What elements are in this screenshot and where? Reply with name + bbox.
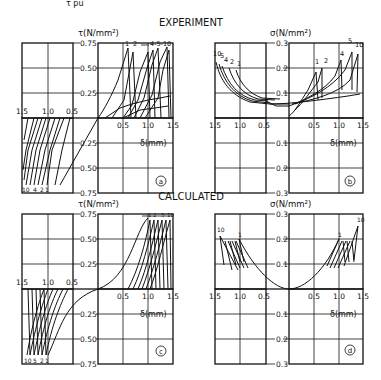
panel-b-ytick: 0.3 xyxy=(276,189,288,198)
panel-c-xtick: 1.5 xyxy=(16,278,28,287)
panel-d-curve-label: 10 xyxy=(217,226,225,233)
panel-b-xtick: 1.0 xyxy=(333,121,345,130)
panel-a-ytick: 0.25 xyxy=(80,89,97,98)
panel-d-ytick: 0.1 xyxy=(276,260,288,269)
panel-a-ytick: 0.75 xyxy=(80,39,97,48)
panel-b-ytick: 0.1 xyxy=(276,89,288,98)
section-title-experiment: EXPERIMENT xyxy=(159,17,224,28)
panel-a-curve-label: 4 xyxy=(33,186,37,193)
panel-a-curve-label: 1 xyxy=(125,40,129,48)
panel-b-xtick: 1.5 xyxy=(357,121,369,130)
panel-c-ytick: 0.75 xyxy=(80,210,97,219)
panel-c-xtick: 0.5 xyxy=(117,292,129,301)
panel-c-ytick: 0.50 xyxy=(80,335,97,344)
panel-b-curve-label: 2 xyxy=(230,58,234,66)
panel-c-ytick: 0.50 xyxy=(80,235,97,244)
panel-d-xtick: 0.5 xyxy=(258,292,270,301)
panel-b-xlabel: δ(mm) xyxy=(330,139,357,148)
panel-c-xtick: 0.5 xyxy=(66,278,78,287)
panel-c-ytick: 0.25 xyxy=(80,260,97,269)
panel-a-curve-label: 4-5-10 xyxy=(150,40,171,48)
panel-b-curve-label: 5 xyxy=(348,37,352,45)
panel-d-ytick: 0.2 xyxy=(276,335,288,344)
panel-b-ytick: 0.2 xyxy=(276,164,288,173)
panel-a-ytick: 0.50 xyxy=(80,64,97,73)
panel-b-ylabel: σ(N/mm²) xyxy=(270,28,311,38)
panel-c-xtick: 1.0 xyxy=(42,278,54,287)
panel-b-ytick: 0.3 xyxy=(276,39,288,48)
panel-a-ytick: 0.50 xyxy=(80,164,97,173)
panel-d-ytick: 0.1 xyxy=(276,310,288,319)
panel-a-ytick: 0.25 xyxy=(80,139,97,148)
panel-a-xtick: 1.5 xyxy=(16,107,28,116)
panel-c-ytick: 0.25 xyxy=(80,310,97,319)
panel-a-xtick: 1.5 xyxy=(167,121,179,130)
panel-b-curve-label: 4 xyxy=(340,50,344,58)
panel-c-curve-label: 2 xyxy=(153,212,157,218)
panel-b-xtick: 0.5 xyxy=(308,121,320,130)
panel-c-xlabel: δ(mm) xyxy=(140,310,167,319)
panel-b-xtick: 0.5 xyxy=(258,121,270,130)
panel-c-xtick: 1.0 xyxy=(142,292,154,301)
panel-d-curve-label: 1 xyxy=(338,231,342,238)
panel-c-curve-label: 1 xyxy=(148,212,152,218)
panel-d-xtick: 1.5 xyxy=(209,292,221,301)
panel-d-badge: d xyxy=(348,347,352,355)
panel-b-xtick: 1.5 xyxy=(209,121,221,130)
panel-d-xtick: 1.5 xyxy=(357,292,369,301)
panel-d-ytick: 0.3 xyxy=(276,360,288,369)
panel-b-badge: b xyxy=(348,178,353,186)
panel-a-xtick: 1.0 xyxy=(42,107,54,116)
panel-a-xtick: 0.5 xyxy=(66,107,78,116)
panel-b-xtick: 1.0 xyxy=(234,121,246,130)
figure: τ pu EXPERIMENT CALCULATED xyxy=(0,0,381,380)
panel-c-curve-label: 10 xyxy=(24,357,32,364)
panel-c-curve-label: 10 xyxy=(167,212,174,218)
panel-a-curve-label: 2 xyxy=(133,40,137,48)
chart-panel-a xyxy=(22,43,173,193)
panel-c-ylabel: τ(N/mm²) xyxy=(78,199,119,209)
panel-b-curve-label: 2 xyxy=(324,57,328,65)
panel-d-xtick: 1.0 xyxy=(234,292,246,301)
panel-a-ylabel: τ(N/mm²) xyxy=(78,28,119,38)
header-fragment: τ pu xyxy=(66,0,84,8)
panel-b-ytick: 0.2 xyxy=(276,64,288,73)
panel-d-curve-label: 1 xyxy=(238,231,242,238)
panel-c-xtick: 1.5 xyxy=(167,292,179,301)
panel-c-curve-label: 1 xyxy=(45,357,49,364)
panel-b-curve-label: 4 xyxy=(224,56,228,64)
panel-c-curve-label: 5 xyxy=(33,357,37,364)
panel-a-xlabel: δ(mm) xyxy=(140,139,167,148)
panel-d-xtick: 0.5 xyxy=(308,292,320,301)
panel-d-xlabel: δ(mm) xyxy=(330,310,357,319)
panel-a-curve-label: 2 xyxy=(40,186,44,193)
panel-d-ylabel: σ(N/mm²) xyxy=(270,199,311,209)
panel-a-badge: a xyxy=(159,178,163,186)
panel-c-curve-label: 2 xyxy=(40,357,44,364)
panel-c-badge: c xyxy=(159,348,163,356)
panel-c-ytick: 0.75 xyxy=(80,360,97,369)
panel-c-curve-label: 5 xyxy=(161,212,165,218)
panel-d-xtick: 1.0 xyxy=(333,292,345,301)
chart-panel-c xyxy=(22,214,173,364)
panel-a-xtick: 0.5 xyxy=(117,121,129,130)
panel-d-curve-label: 10 xyxy=(357,216,365,223)
panel-a-curve-label: 1 xyxy=(45,186,49,193)
panel-b-curve-label: 10 xyxy=(355,41,363,49)
panel-d-ytick: 0.3 xyxy=(276,210,288,219)
panel-a-curve-label: 10 xyxy=(22,186,30,193)
panel-a-ytick: 0.75 xyxy=(80,189,97,198)
panel-b-ytick: 0.1 xyxy=(276,139,288,148)
panel-a-xtick: 1.0 xyxy=(142,121,154,130)
panel-b-curve-label: 1 xyxy=(315,58,319,66)
panel-b-curve-label: 1 xyxy=(237,60,241,68)
panel-d-ytick: 0.2 xyxy=(276,235,288,244)
